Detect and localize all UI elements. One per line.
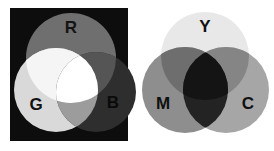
- color-mixing-figure: R G B: [0, 0, 274, 151]
- label-yellow: Y: [199, 17, 211, 36]
- label-magenta: M: [156, 94, 170, 113]
- label-cyan: C: [242, 94, 254, 113]
- subtractive-color-mixing-panel: Y M C: [0, 0, 274, 151]
